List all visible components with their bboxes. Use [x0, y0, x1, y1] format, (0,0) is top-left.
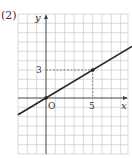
y-tick-label: 3: [36, 66, 42, 75]
origin-label: O: [48, 102, 55, 111]
axes: [18, 16, 127, 154]
point-origin: [44, 96, 48, 100]
coordinate-graph: [0, 0, 132, 158]
y-axis-label: y: [35, 13, 41, 23]
y-axis-arrow-icon: [44, 14, 48, 19]
x-axis-label: x: [121, 101, 127, 111]
grid: [18, 14, 128, 154]
graph-line: [18, 46, 132, 114]
x-tick-label: 5: [89, 102, 95, 111]
point-5-3: [91, 68, 95, 72]
